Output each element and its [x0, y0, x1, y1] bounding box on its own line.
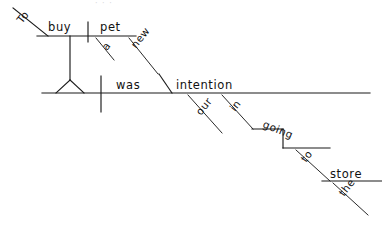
faint-header-text: · · ·: [95, 0, 113, 8]
word-our: our: [193, 95, 214, 117]
word-going: going: [261, 118, 295, 141]
faint-scan-artifact-group: · · ·: [95, 0, 113, 8]
pedestal-triangle-right-leg: [70, 80, 84, 93]
word-to-preposition: to: [298, 148, 315, 164]
word-buy: buy: [48, 20, 71, 34]
word-new: new: [128, 25, 152, 51]
word-pet: pet: [100, 20, 121, 34]
word-a: a: [99, 39, 113, 52]
predicate-nominative-slant-line: [159, 74, 172, 93]
pedestal-triangle-left-leg: [56, 80, 70, 93]
word-intention: intention: [176, 78, 233, 92]
word-in: in: [227, 98, 243, 114]
diagram-svg: · · ·: [0, 0, 382, 230]
sentence-diagram-canvas: · · ·: [0, 0, 382, 230]
word-was: was: [116, 78, 140, 92]
